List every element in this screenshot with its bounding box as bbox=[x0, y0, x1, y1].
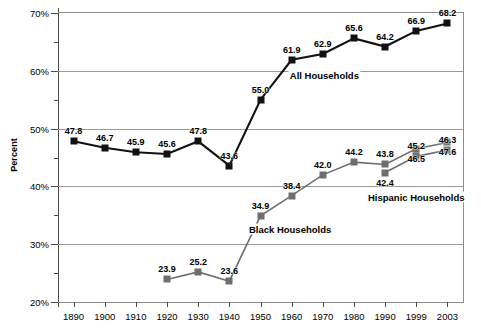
data-point-marker bbox=[70, 138, 77, 145]
data-point-marker bbox=[257, 212, 264, 219]
data-point-label: 45.9 bbox=[127, 137, 145, 147]
data-point-label: 42.4 bbox=[376, 178, 394, 188]
data-point-marker bbox=[164, 151, 171, 158]
data-point-marker bbox=[350, 159, 357, 166]
data-point-marker bbox=[288, 192, 295, 199]
x-axis-tick-label: 2003 bbox=[437, 311, 458, 322]
x-axis-tick-label: 1999 bbox=[406, 311, 427, 322]
data-point-label: 46.3 bbox=[439, 135, 457, 145]
data-point-label: 66.9 bbox=[408, 16, 426, 26]
data-point-marker bbox=[257, 96, 264, 103]
data-point-label: 44.2 bbox=[345, 147, 363, 157]
y-axis-title: Percent bbox=[9, 138, 19, 172]
data-point-label: 42.0 bbox=[314, 160, 332, 170]
series-lines bbox=[58, 13, 463, 302]
series-annotation: Black Households bbox=[248, 224, 332, 235]
y-axis-tick-label: 70% bbox=[30, 8, 49, 19]
series-line bbox=[167, 142, 447, 281]
x-axis-tick bbox=[385, 302, 386, 307]
data-point-label: 47.6 bbox=[439, 147, 457, 157]
data-point-label: 34.9 bbox=[252, 201, 270, 211]
data-point-marker bbox=[195, 138, 202, 145]
x-axis-tick bbox=[354, 302, 355, 307]
data-point-label: 61.9 bbox=[283, 45, 301, 55]
x-axis-tick-label: 1920 bbox=[156, 311, 177, 322]
x-axis-tick-label: 1960 bbox=[281, 311, 302, 322]
data-point-label: 62.9 bbox=[314, 39, 332, 49]
y-axis-tick-label: 60% bbox=[30, 65, 49, 76]
y-axis-tick-label: 20% bbox=[30, 297, 49, 308]
x-axis-tick-label: 1990 bbox=[375, 311, 396, 322]
x-axis-tick-label: 1980 bbox=[343, 311, 364, 322]
data-point-label: 64.2 bbox=[376, 32, 394, 42]
data-point-label: 55.0 bbox=[252, 85, 270, 95]
x-axis-tick bbox=[229, 302, 230, 307]
data-point-label: 45.6 bbox=[158, 139, 176, 149]
data-point-marker bbox=[226, 278, 233, 285]
y-axis-tick bbox=[51, 244, 58, 245]
y-axis-tick bbox=[51, 129, 58, 130]
y-axis-tick bbox=[51, 71, 58, 72]
y-axis-tick-label: 30% bbox=[30, 239, 49, 250]
data-point-marker bbox=[444, 20, 451, 27]
x-axis-tick-label: 1970 bbox=[312, 311, 333, 322]
data-point-label: 45.2 bbox=[408, 141, 426, 151]
data-point-marker bbox=[319, 51, 326, 58]
data-point-marker bbox=[132, 149, 139, 156]
data-point-label: 65.6 bbox=[345, 23, 363, 33]
x-axis-tick bbox=[416, 302, 417, 307]
x-axis-tick-label: 1890 bbox=[63, 311, 84, 322]
x-axis-tick-label: 1910 bbox=[125, 311, 146, 322]
data-point-label: 23.9 bbox=[158, 264, 176, 274]
y-axis-tick bbox=[51, 186, 58, 187]
data-point-marker bbox=[382, 169, 389, 176]
x-axis-tick bbox=[261, 302, 262, 307]
data-point-marker bbox=[350, 35, 357, 42]
x-axis-tick bbox=[292, 302, 293, 307]
x-axis-tick bbox=[74, 302, 75, 307]
data-point-marker bbox=[288, 56, 295, 63]
plot-area: 20%30%40%50%60%70% 189019001910192019301… bbox=[58, 12, 464, 303]
data-point-marker bbox=[195, 268, 202, 275]
y-axis-tick-label: 50% bbox=[30, 123, 49, 134]
data-point-marker bbox=[101, 144, 108, 151]
series-annotation: Hispanic Households bbox=[367, 192, 466, 203]
data-point-label: 46.5 bbox=[408, 154, 426, 164]
x-axis-tick bbox=[136, 302, 137, 307]
data-point-marker bbox=[382, 43, 389, 50]
x-axis-tick bbox=[198, 302, 199, 307]
series-annotation: All Households bbox=[289, 69, 360, 80]
x-axis-tick bbox=[105, 302, 106, 307]
data-point-marker bbox=[382, 161, 389, 168]
data-point-marker bbox=[413, 27, 420, 34]
data-point-label: 68.2 bbox=[439, 8, 457, 18]
data-point-label: 43.6 bbox=[221, 151, 239, 161]
data-point-label: 46.7 bbox=[96, 133, 114, 143]
data-point-label: 23.6 bbox=[221, 266, 239, 276]
x-axis-tick bbox=[167, 302, 168, 307]
data-point-label: 47.8 bbox=[189, 126, 207, 136]
y-axis-tick bbox=[51, 302, 58, 303]
data-point-label: 25.2 bbox=[189, 257, 207, 267]
y-axis-tick bbox=[51, 13, 58, 14]
data-point-label: 43.8 bbox=[376, 149, 394, 159]
data-point-label: 47.8 bbox=[65, 126, 83, 136]
x-axis-tick-label: 1940 bbox=[219, 311, 240, 322]
x-axis-tick bbox=[447, 302, 448, 307]
data-point-marker bbox=[226, 162, 233, 169]
data-point-marker bbox=[319, 171, 326, 178]
x-axis-tick-label: 1900 bbox=[94, 311, 115, 322]
x-axis-tick-label: 1930 bbox=[188, 311, 209, 322]
y-axis-tick-label: 40% bbox=[30, 181, 49, 192]
x-axis-tick bbox=[323, 302, 324, 307]
x-axis-tick-label: 1950 bbox=[250, 311, 271, 322]
data-point-label: 38.4 bbox=[283, 181, 301, 191]
data-point-marker bbox=[164, 276, 171, 283]
chart-container: Percent 20%30%40%50%60%70% 1890190019101… bbox=[0, 0, 481, 329]
